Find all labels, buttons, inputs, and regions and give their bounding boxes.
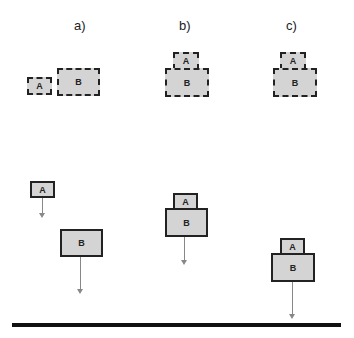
falling-box-b-b: B bbox=[165, 208, 208, 237]
box-b-separate: B bbox=[57, 68, 100, 96]
panel-label-a: a) bbox=[74, 18, 86, 33]
box-b-stacked-b: B bbox=[165, 68, 209, 97]
falling-box-c-b: B bbox=[271, 253, 315, 282]
velocity-arrow-a-b bbox=[80, 257, 81, 290]
panel-label-c: c) bbox=[286, 18, 297, 33]
box-a-separate: A bbox=[27, 77, 52, 95]
velocity-arrow-b bbox=[184, 237, 185, 261]
falling-box-a-a: A bbox=[30, 181, 55, 198]
panel-label-b: b) bbox=[179, 18, 191, 33]
velocity-arrow-c bbox=[292, 282, 293, 315]
box-b-stacked-c: B bbox=[273, 68, 317, 97]
ground-line bbox=[12, 323, 341, 327]
falling-box-a-b: B bbox=[60, 229, 103, 257]
velocity-arrow-a-a bbox=[42, 198, 43, 214]
